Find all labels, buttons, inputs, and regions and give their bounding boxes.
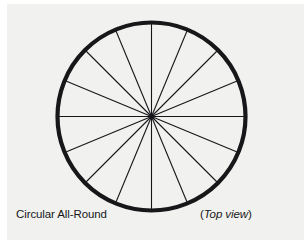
caption-close-paren: ) [248,208,252,220]
figure-page: Circular All-Round (Top view) [0,0,307,242]
caption-left: Circular All-Round [16,208,107,220]
caption-view-text: Top view [204,208,248,220]
caption-right: (Top view) [200,208,252,220]
caption-left-text: Circular All-Round [16,208,107,220]
circular-all-round-diagram [0,0,307,242]
